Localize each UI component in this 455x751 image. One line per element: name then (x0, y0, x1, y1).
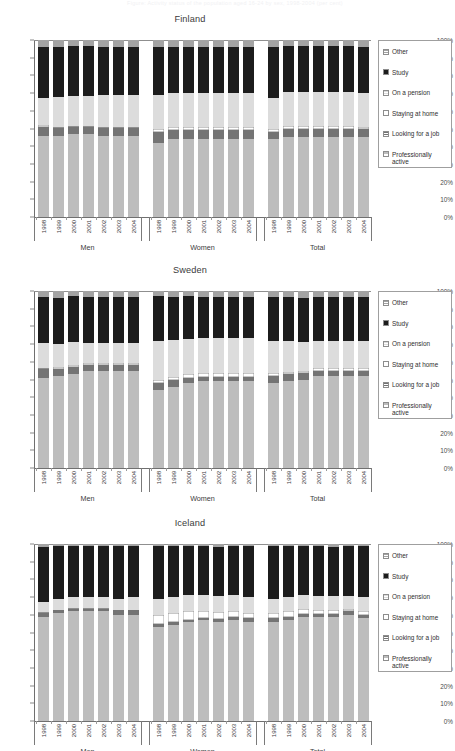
legend-item-job[interactable]: Looking for a job (383, 130, 439, 138)
bar-segment-pension (358, 341, 369, 368)
stacked-bar (328, 40, 339, 217)
bar-segment-job (38, 369, 49, 378)
legend-item-other[interactable]: Other (383, 48, 408, 56)
x-axis-tick-mark (166, 217, 167, 220)
bar-segment-study (98, 47, 109, 95)
x-axis-tick-mark (36, 217, 37, 220)
bar-segment-active (68, 134, 79, 217)
group-label: Men (34, 747, 141, 751)
stacked-bar (113, 291, 124, 468)
x-axis-tick-mark (151, 468, 152, 471)
bar-segment-pension (98, 343, 109, 362)
bar-segment-pension (198, 338, 209, 373)
bar-segment-pension (153, 599, 164, 615)
chart-legend: OtherStudyOn a pensionStaying at homeLoo… (378, 291, 452, 419)
bar-segment-job (328, 129, 339, 138)
x-axis-tick-mark (166, 468, 167, 471)
bar-segment-pension (283, 597, 294, 611)
stacked-bar (53, 291, 64, 468)
x-axis-tick-mark (266, 721, 267, 724)
bar-segment-active (53, 376, 64, 468)
bar-segment-active (243, 139, 254, 217)
bar-segment-job (268, 132, 279, 139)
stacked-bar (113, 544, 124, 721)
stacked-bar (313, 40, 324, 217)
legend-item-home[interactable]: Staying at home (383, 110, 438, 118)
x-axis-year-label: 1998 (40, 724, 47, 737)
legend-swatch-pension (383, 341, 389, 347)
x-axis-tick-mark (111, 217, 112, 220)
legend-item-study[interactable]: Study (383, 69, 408, 77)
bar-segment-pension (313, 596, 324, 609)
x-axis-year-label: 1999 (170, 220, 177, 233)
legend-item-active[interactable]: Professionally active (383, 402, 448, 417)
x-axis-tick-mark (226, 721, 227, 724)
bar-segment-active (153, 390, 164, 468)
legend-item-other[interactable]: Other (383, 552, 408, 560)
x-axis-year-label: 2000 (300, 724, 307, 737)
legend-item-pension[interactable]: On a pension (383, 89, 430, 97)
stacked-bar (243, 291, 254, 468)
stacked-bar (38, 544, 49, 721)
legend-item-other[interactable]: Other (383, 299, 408, 307)
bar-segment-pension (38, 602, 49, 613)
legend-label: Professionally active (392, 151, 448, 166)
bar-segment-study (68, 546, 79, 597)
legend-item-home[interactable]: Staying at home (383, 361, 438, 369)
stacked-bar (198, 40, 209, 217)
bar-segment-job (183, 130, 194, 139)
bar-segment-study (198, 297, 209, 338)
x-axis-year-label: 2004 (130, 220, 137, 233)
legend-item-pension[interactable]: On a pension (383, 340, 430, 348)
bar-segment-study (38, 47, 49, 98)
bar-segment-pension (268, 98, 279, 128)
stacked-bar (38, 291, 49, 468)
x-axis-year-label: 1999 (55, 724, 62, 737)
legend-item-active[interactable]: Professionally active (383, 151, 448, 166)
legend-swatch-home (383, 614, 389, 620)
x-axis-year-label: 2001 (315, 724, 322, 737)
bar-segment-other (53, 40, 64, 47)
x-axis-year-label: 2002 (215, 724, 222, 737)
x-axis-tick-mark (81, 721, 82, 724)
legend-item-home[interactable]: Staying at home (383, 614, 438, 622)
x-axis-tick-mark (151, 217, 152, 220)
legend-item-study[interactable]: Study (383, 573, 408, 581)
stacked-bar (53, 544, 64, 721)
x-axis-line (34, 217, 371, 218)
legend-swatch-pension (383, 594, 389, 600)
x-axis-tick-mark (241, 468, 242, 471)
bar-segment-study (128, 546, 139, 597)
bar-segment-active (228, 139, 239, 217)
bar-segment-study (343, 546, 354, 596)
legend-item-job[interactable]: Looking for a job (383, 381, 439, 389)
bar-segment-active (213, 381, 224, 468)
stacked-bar (38, 40, 49, 217)
x-axis-year-label: 2000 (70, 724, 77, 737)
x-axis-year-label: 2001 (85, 471, 92, 484)
x-axis-tick-mark (196, 721, 197, 724)
bar-segment-pension (213, 596, 224, 612)
bar-segment-other (358, 40, 369, 47)
stacked-bar (343, 40, 354, 217)
group-separator (371, 217, 372, 241)
x-axis-tick-mark (166, 721, 167, 724)
bar-segment-study (153, 296, 164, 340)
x-axis-year-label: 2003 (230, 724, 237, 737)
x-axis-tick-mark (66, 721, 67, 724)
bar-segment-study (38, 547, 49, 602)
legend-item-study[interactable]: Study (383, 320, 408, 328)
stacked-bar (228, 544, 239, 721)
bar-segment-study (313, 46, 324, 92)
x-axis-year-label: 2003 (345, 724, 352, 737)
legend-item-pension[interactable]: On a pension (383, 593, 430, 601)
bar-segment-active (98, 371, 109, 468)
legend-item-job[interactable]: Looking for a job (383, 634, 439, 642)
bar-segment-active (98, 136, 109, 217)
stacked-bar (328, 544, 339, 721)
legend-item-active[interactable]: Professionally active (383, 655, 448, 670)
legend-swatch-active (383, 402, 389, 408)
y-axis-tick-label: 0% (444, 465, 453, 472)
x-axis-tick-mark (51, 217, 52, 220)
stacked-bar (153, 291, 164, 468)
